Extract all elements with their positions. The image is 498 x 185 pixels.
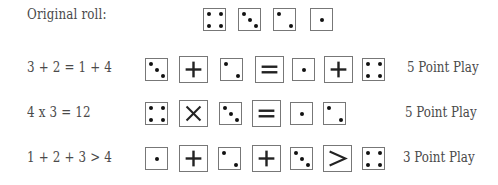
die-face-2	[323, 102, 346, 125]
pip	[161, 106, 165, 110]
pip	[161, 74, 165, 78]
pip	[242, 12, 246, 16]
pip	[219, 12, 223, 16]
plus-operator-icon	[324, 56, 353, 83]
die-face-4	[145, 102, 168, 125]
points-label: 5 Point Play	[407, 59, 479, 75]
pip	[207, 12, 211, 16]
pip	[366, 163, 370, 167]
die-face-1	[290, 102, 313, 125]
row-label: 4 x 3 = 12	[27, 104, 91, 120]
pip	[222, 151, 226, 155]
row-label: 3 + 2 = 1 + 4	[27, 59, 112, 75]
die-face-1	[310, 8, 333, 31]
plus-operator-icon	[179, 56, 208, 83]
die-face-2	[220, 58, 243, 81]
equals-operator-icon	[252, 100, 281, 127]
pip	[207, 24, 211, 28]
pip	[320, 18, 324, 22]
pip	[339, 118, 343, 122]
pip	[224, 62, 228, 66]
pip	[300, 157, 304, 161]
pip	[327, 106, 331, 110]
pip	[306, 163, 310, 167]
pip	[161, 118, 165, 122]
pip	[366, 74, 370, 78]
pip	[378, 151, 382, 155]
die-face-3	[238, 8, 261, 31]
pip	[294, 151, 298, 155]
plus-operator-icon	[179, 145, 208, 172]
pip	[155, 68, 159, 72]
pip	[248, 18, 252, 22]
pip	[236, 74, 240, 78]
pip	[149, 62, 153, 66]
times-operator-icon	[179, 100, 208, 127]
die-face-3	[145, 58, 168, 81]
pip	[149, 118, 153, 122]
die-face-4	[203, 8, 226, 31]
die-face-2	[273, 8, 296, 31]
points-label: 3 Point Play	[403, 149, 475, 165]
pip	[300, 112, 304, 116]
pip	[366, 151, 370, 155]
pip	[235, 118, 239, 122]
die-face-3	[290, 147, 313, 170]
pip	[234, 163, 238, 167]
pip	[229, 112, 233, 116]
pip	[254, 24, 258, 28]
die-face-1	[145, 147, 168, 170]
pip	[223, 106, 227, 110]
pip	[366, 62, 370, 66]
points-label: 5 Point Play	[405, 104, 477, 120]
row-label: Original roll:	[27, 6, 107, 22]
pip	[378, 62, 382, 66]
greater-than-operator-icon	[323, 145, 352, 172]
plus-operator-icon	[252, 145, 281, 172]
pip	[378, 163, 382, 167]
pip	[149, 106, 153, 110]
pip	[155, 157, 159, 161]
die-face-3	[219, 102, 242, 125]
die-face-4	[362, 58, 385, 81]
pip	[302, 68, 306, 72]
die-face-1	[292, 58, 315, 81]
pip	[277, 12, 281, 16]
pip	[378, 74, 382, 78]
pip	[289, 24, 293, 28]
pip	[219, 24, 223, 28]
die-face-2	[218, 147, 241, 170]
equals-operator-icon	[255, 56, 284, 83]
die-face-4	[362, 147, 385, 170]
row-label: 1 + 2 + 3 > 4	[27, 149, 112, 165]
